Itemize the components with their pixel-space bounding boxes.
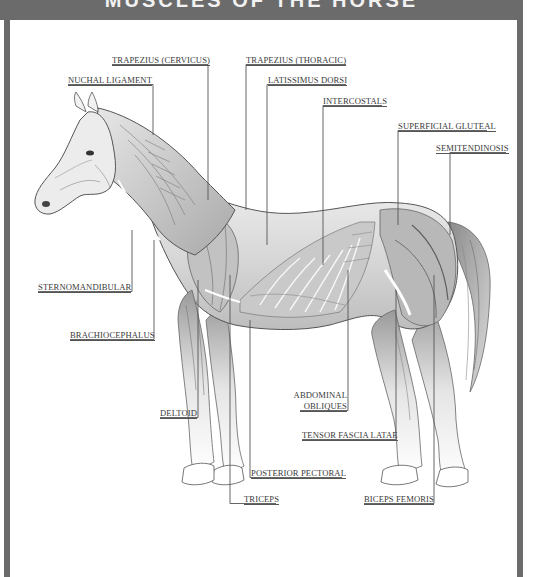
- label-deltoid: DELTOID: [160, 408, 197, 419]
- label-abdominal-obliques-line2: OBLIQUES: [300, 401, 347, 412]
- label-latissimus-dorsi: LATISSIMUS DORSI: [268, 75, 347, 86]
- label-abdominal-obliques-line1: ABDOMINAL: [292, 390, 347, 400]
- horse-neck: [97, 108, 235, 255]
- label-semitendinosis: SEMITENDINOSIS: [436, 143, 509, 154]
- label-trapezius-cervicus: TRAPEZIUS (CERVICUS): [112, 55, 210, 66]
- label-superficial-gluteal: SUPERFICIAL GLUTEAL: [398, 121, 496, 132]
- label-nuchal-ligament: NUCHAL LIGAMENT: [68, 75, 152, 86]
- label-biceps-femoris: BICEPS FEMORIS: [364, 494, 434, 505]
- label-posterior-pectoral: POSTERIOR PECTORAL: [251, 468, 346, 479]
- label-triceps: TRICEPS: [244, 494, 279, 505]
- label-intercostals: INTERCOSTALS: [323, 96, 387, 107]
- label-trapezius-thoracic: TRAPEZIUS (THORACIC): [246, 55, 346, 66]
- label-sternomandibular: STERNOMANDIBULAR: [38, 282, 131, 293]
- label-tensor-fascia-latae: TENSOR FASCIA LATAE: [302, 430, 398, 441]
- label-brachiocephalus: BRACHIOCEPHALUS: [70, 330, 155, 341]
